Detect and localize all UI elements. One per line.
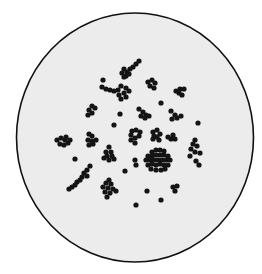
colony-dot: [93, 137, 98, 142]
colony-dot: [121, 74, 126, 79]
colony-dot: [181, 86, 186, 91]
colony-dot: [117, 111, 122, 116]
cluster-single-1: [158, 100, 163, 105]
colony-dot: [151, 85, 156, 90]
colony-dot: [137, 129, 142, 134]
colony-dot: [113, 188, 118, 193]
colony-dot: [100, 77, 105, 82]
colony-dot: [174, 183, 179, 188]
colony-dot: [106, 144, 111, 149]
colony-dot: [72, 156, 77, 161]
colony-dot: [126, 88, 131, 93]
petri-dish-figure: [0, 0, 262, 274]
colony-dot: [122, 168, 127, 173]
colony-dot: [157, 131, 162, 136]
cluster-single-5: [72, 156, 77, 161]
colony-dot: [156, 137, 161, 142]
colony-dot: [67, 137, 72, 142]
colony-dot: [192, 149, 197, 154]
colony-dot: [144, 188, 149, 193]
colony-dot: [197, 150, 202, 155]
colony-dot: [158, 197, 163, 202]
colony-dot: [146, 113, 151, 118]
colony-dot: [89, 133, 94, 138]
colony-dot: [178, 113, 183, 118]
colony-dot: [172, 136, 177, 141]
cluster-single-3: [195, 120, 200, 125]
colony-dot: [92, 105, 97, 110]
colony-dot: [194, 143, 199, 148]
colony-dot: [84, 173, 89, 178]
cluster-single-2: [117, 111, 122, 116]
colony-dot: [172, 188, 177, 193]
colony-dot: [101, 155, 106, 160]
colony-dot: [132, 157, 137, 162]
colony-dot: [66, 186, 71, 191]
cluster-single-4: [111, 122, 116, 127]
colony-dot: [179, 92, 184, 97]
colony-dot: [123, 94, 128, 99]
colony-dot: [162, 166, 167, 171]
colony-dot: [196, 162, 201, 167]
colony-dot: [169, 116, 174, 121]
colony-dot: [100, 184, 105, 189]
colony-dot: [85, 112, 90, 117]
colony-dot: [118, 83, 123, 88]
colony-dot: [150, 136, 155, 141]
cluster-single-7: [144, 188, 149, 193]
colony-dot: [126, 71, 131, 76]
colony-dot: [168, 108, 173, 113]
colony-dot: [132, 140, 137, 145]
colony-dot: [153, 167, 158, 172]
colony-dot: [102, 189, 107, 194]
colony-dot: [106, 157, 111, 162]
colony-dot: [118, 96, 123, 101]
colony-dot: [165, 134, 170, 139]
colony-dot: [133, 162, 138, 167]
colony-dot: [111, 156, 116, 161]
colony-dot: [187, 153, 192, 158]
colony-dot: [158, 100, 163, 105]
colony-dot: [152, 80, 157, 85]
colony-dot: [148, 166, 153, 171]
colony-dot: [167, 157, 172, 162]
cluster-single-8: [158, 197, 163, 202]
colony-dot: [104, 194, 109, 199]
dish-illustration: [0, 0, 262, 274]
cluster-single-9: [133, 202, 138, 207]
colony-dot: [195, 120, 200, 125]
cluster-single-6: [122, 168, 127, 173]
colony-dot: [133, 202, 138, 207]
colony-dot: [111, 122, 116, 127]
